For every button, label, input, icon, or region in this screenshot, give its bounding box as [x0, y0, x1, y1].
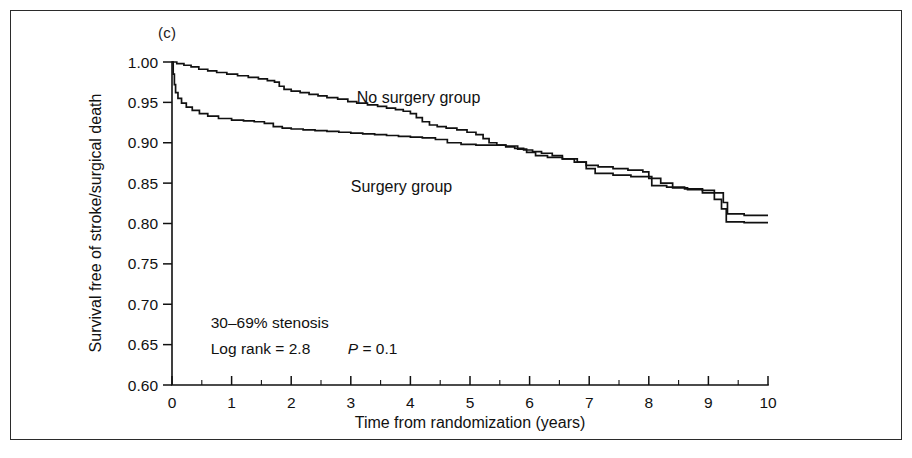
- series-label-1: Surgery group: [351, 178, 452, 195]
- x-axis-title: Time from randomization (years): [355, 414, 586, 431]
- km-curve-0: [172, 62, 768, 215]
- tick-labels-group: 0.600.650.700.750.800.850.900.951.000123…: [128, 54, 777, 412]
- x-tick-label: 3: [346, 394, 355, 411]
- y-tick-label: 0.85: [128, 175, 158, 192]
- pvalue-note: P = 0.1: [348, 340, 398, 357]
- logrank-note: Log rank = 2.8: [211, 340, 311, 357]
- x-tick-label: 10: [759, 394, 777, 411]
- x-tick-label: 5: [466, 394, 475, 411]
- y-tick-label: 0.65: [128, 336, 158, 353]
- x-tick-label: 2: [287, 394, 296, 411]
- x-tick-label: 7: [585, 394, 594, 411]
- x-tick-label: 9: [704, 394, 713, 411]
- axes-group: [163, 62, 768, 385]
- x-tick-label: 4: [406, 394, 415, 411]
- survival-chart: 0.600.650.700.750.800.850.900.951.000123…: [0, 0, 912, 458]
- km-curve-1: [172, 62, 768, 223]
- stenosis-note: 30–69% stenosis: [211, 314, 329, 331]
- figure-screenshot: (c) 0.600.650.700.750.800.850.900.951.00…: [0, 0, 912, 458]
- curves-group: [172, 62, 768, 223]
- y-tick-label: 1.00: [128, 54, 159, 71]
- y-tick-label: 0.95: [128, 94, 158, 111]
- y-axis-title: Survival free of stroke/surgical death: [87, 94, 104, 353]
- y-tick-label: 0.60: [128, 377, 159, 394]
- series-label-0: No surgery group: [357, 89, 481, 106]
- y-tick-label: 0.70: [128, 296, 159, 313]
- x-tick-label: 0: [168, 394, 177, 411]
- y-tick-label: 0.75: [128, 255, 158, 272]
- axis-spines: [172, 62, 768, 385]
- annotations-group: 30–69% stenosisLog rank = 2.8P = 0.1: [211, 314, 398, 357]
- x-tick-label: 6: [525, 394, 534, 411]
- y-tick-label: 0.90: [128, 134, 159, 151]
- x-tick-label: 1: [227, 394, 236, 411]
- x-tick-label: 8: [644, 394, 653, 411]
- y-tick-label: 0.80: [128, 215, 159, 232]
